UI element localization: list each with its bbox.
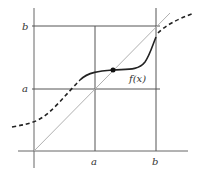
identity-diagonal — [34, 13, 170, 151]
dashed-curve-right — [158, 13, 194, 33]
label-curve-f: f(x) — [128, 73, 146, 84]
label-y-b: b — [22, 21, 28, 32]
label-y-a: a — [22, 83, 28, 94]
label-x-b: b — [152, 156, 158, 167]
label-x-a: a — [91, 156, 97, 167]
fixed-point-marker — [111, 68, 116, 73]
fixed-point-diagram: b a a b f(x) — [0, 0, 202, 173]
